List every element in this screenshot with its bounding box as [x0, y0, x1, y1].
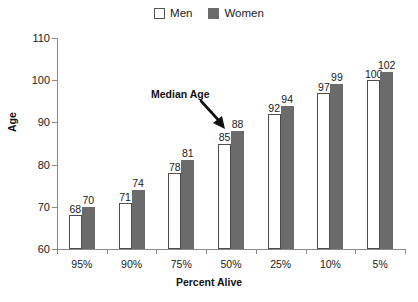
- y-axis-tick: [52, 122, 57, 123]
- x-axis-tick-label: 5%: [373, 258, 388, 270]
- bar-value-label: 81: [182, 148, 194, 159]
- bar-value-label: 78: [169, 162, 181, 173]
- bar-men-75pct: 78: [168, 173, 181, 249]
- y-axis-tick-label: 70: [38, 201, 50, 213]
- y-axis-line: [57, 38, 58, 249]
- bar-women-75pct: 81: [181, 160, 194, 249]
- bar-value-label: 85: [219, 132, 231, 143]
- bar-men-90pct: 71: [119, 203, 132, 249]
- x-axis-tick: [355, 249, 356, 254]
- y-axis-tick-label: 110: [32, 32, 50, 44]
- y-axis-tick: [52, 80, 57, 81]
- bar-value-label: 97: [318, 82, 330, 93]
- y-axis-tick-label: 60: [38, 243, 50, 255]
- x-axis-tick: [206, 249, 207, 254]
- bar-women-90pct: 74: [132, 190, 145, 249]
- age-percent-alive-bar-chart: Men Women Age 60708090100110 95%90%75%50…: [0, 0, 418, 302]
- bar-men-25pct: 92: [268, 114, 281, 249]
- bar-women-5pct: 102: [380, 72, 393, 249]
- bar-value-label: 88: [232, 119, 244, 130]
- x-axis-tick-label: 50%: [220, 258, 241, 270]
- y-axis-tick: [52, 38, 57, 39]
- x-axis-title: Percent Alive: [0, 276, 418, 288]
- x-axis-tick: [57, 249, 58, 254]
- legend-label-women: Women: [224, 8, 263, 20]
- x-axis-tick: [107, 249, 108, 254]
- plot-area: 60708090100110 95%90%75%50%25%10%5% 6870…: [57, 38, 405, 249]
- bar-value-label: 99: [331, 72, 343, 83]
- y-axis-tick-label: 90: [38, 116, 50, 128]
- median-age-annotation-label: Median Age: [151, 88, 210, 100]
- x-axis-tick: [306, 249, 307, 254]
- x-axis-line: [57, 249, 405, 250]
- x-axis-tick-label: 25%: [270, 258, 291, 270]
- bar-women-95pct: 70: [82, 207, 95, 249]
- x-axis-tick: [256, 249, 257, 254]
- y-axis-tick: [52, 207, 57, 208]
- bar-men-95pct: 68: [69, 215, 82, 249]
- y-axis-tick: [52, 165, 57, 166]
- bar-value-label: 71: [119, 192, 131, 203]
- bar-value-label: 94: [281, 94, 293, 105]
- x-axis-tick-label: 10%: [320, 258, 341, 270]
- bar-women-10pct: 99: [330, 84, 343, 249]
- legend-item-women: Women: [208, 8, 263, 20]
- bar-men-10pct: 97: [317, 93, 330, 249]
- chart-legend: Men Women: [0, 8, 418, 20]
- open-square-icon: [154, 8, 165, 19]
- filled-square-icon: [208, 8, 219, 19]
- x-axis-tick-label: 75%: [171, 258, 192, 270]
- legend-label-men: Men: [170, 8, 192, 20]
- bar-value-label: 102: [378, 60, 396, 71]
- bar-value-label: 74: [132, 178, 144, 189]
- legend-item-men: Men: [154, 8, 192, 20]
- y-axis-tick-label: 80: [38, 159, 50, 171]
- bar-women-25pct: 94: [281, 106, 294, 249]
- bar-men-50pct: 85: [218, 144, 231, 250]
- x-axis-tick-label: 90%: [121, 258, 142, 270]
- y-axis-tick-label: 100: [32, 74, 50, 86]
- bar-men-5pct: 100: [367, 80, 380, 249]
- bar-value-label: 68: [70, 204, 82, 215]
- x-axis-tick: [405, 249, 406, 254]
- bar-value-label: 92: [268, 103, 280, 114]
- bar-value-label: 70: [83, 195, 95, 206]
- x-axis-tick-label: 95%: [71, 258, 92, 270]
- y-axis-title: Age: [6, 112, 18, 132]
- x-axis-tick: [156, 249, 157, 254]
- bar-women-50pct: 88: [231, 131, 244, 249]
